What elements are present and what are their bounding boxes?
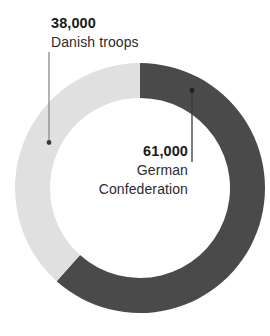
callout-german-label-line2: Confederation <box>99 180 188 199</box>
callout-danish-troops: 38,000 Danish troops <box>51 14 139 52</box>
donut-chart: 38,000 Danish troops 61,000 German Confe… <box>0 0 270 336</box>
leader-dot-german <box>190 88 195 93</box>
callout-german-label-line1: German <box>99 161 188 180</box>
callout-danish-label: Danish troops <box>51 33 139 52</box>
callout-danish-value: 38,000 <box>51 14 139 33</box>
callout-german-confederation: 61,000 German Confederation <box>99 142 188 199</box>
callout-german-value: 61,000 <box>99 142 188 161</box>
leader-dot-danish <box>47 140 52 145</box>
